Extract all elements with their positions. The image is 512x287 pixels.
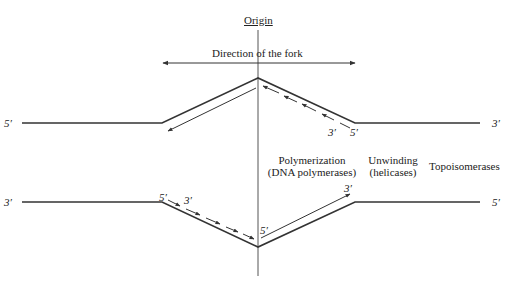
fork-direction-label: Direction of the fork [212, 47, 303, 59]
top-lagging-5-label: 5′ [350, 126, 358, 138]
replication-fork-diagram [0, 0, 512, 287]
zone-unwinding-title: Unwinding [360, 154, 426, 166]
bottom-leading-5-label: 5′ [260, 224, 268, 236]
bottom-leading-3-label: 3′ [344, 182, 352, 194]
bottom-parental-strand [22, 202, 480, 247]
bottom-lagging-3-label: 3′ [184, 194, 192, 206]
zone-topoisomerases: Topoisomerases [429, 160, 500, 172]
bottom-lagging-5-label: 5′ [159, 191, 167, 203]
zone-polymerization-title: Polymerization [262, 154, 362, 166]
top-right-end-label: 3′ [492, 117, 500, 129]
zone-polymerization: Polymerization (DNA polymerases) [262, 154, 362, 178]
top-lagging-3-label: 3′ [328, 126, 336, 138]
top-left-end-label: 5′ [4, 117, 12, 129]
bottom-lagging-fragments [168, 200, 254, 239]
origin-label: Origin [244, 14, 273, 26]
bottom-leading-strand-arrow [261, 194, 350, 238]
zone-unwinding: Unwinding (helicases) [360, 154, 426, 178]
bottom-right-end-label: 5′ [492, 196, 500, 208]
top-lagging-fragments [263, 86, 350, 128]
top-new-strand-arrow [168, 88, 256, 131]
bottom-left-end-label: 3′ [4, 196, 12, 208]
zone-polymerization-enzyme: (DNA polymerases) [262, 166, 362, 178]
zone-unwinding-enzyme: (helicases) [360, 166, 426, 178]
top-parental-strand [22, 78, 480, 123]
